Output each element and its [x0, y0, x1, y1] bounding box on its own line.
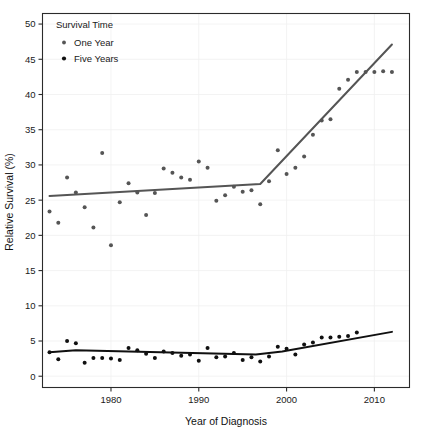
x-tick-label: 1980 — [100, 394, 121, 405]
data-point-one-year — [65, 176, 69, 180]
chart-figure: 05101520253035404550 1980199020002010 Ye… — [0, 0, 421, 432]
x-tick-label: 1990 — [188, 394, 209, 405]
data-point-one-year — [390, 70, 394, 74]
data-point-five-years — [109, 357, 113, 361]
data-point-five-years — [232, 351, 236, 355]
data-point-one-year — [337, 87, 341, 91]
data-point-one-year — [162, 166, 166, 170]
data-point-five-years — [241, 358, 245, 362]
data-point-one-year — [381, 69, 385, 73]
data-point-one-year — [109, 243, 113, 247]
data-point-one-year — [355, 70, 359, 74]
legend: Survival Time One Year Five Years — [56, 19, 119, 64]
data-point-five-years — [162, 350, 166, 354]
relative-survival-scatter-chart: 05101520253035404550 1980199020002010 Ye… — [0, 0, 421, 432]
data-point-five-years — [285, 347, 289, 351]
data-point-one-year — [302, 154, 306, 158]
data-point-five-years — [355, 331, 359, 335]
x-tick-label: 2010 — [364, 394, 385, 405]
data-point-one-year — [74, 190, 78, 194]
y-tick-label: 5 — [30, 335, 35, 346]
data-point-five-years — [249, 355, 253, 359]
data-point-five-years — [144, 352, 148, 356]
y-tick-label: 30 — [25, 159, 36, 170]
y-tick-label: 45 — [25, 54, 36, 65]
data-point-five-years — [293, 352, 297, 356]
y-tick-label: 35 — [25, 124, 36, 135]
data-point-five-years — [197, 359, 201, 363]
data-point-five-years — [276, 345, 280, 349]
data-point-one-year — [249, 188, 253, 192]
data-point-five-years — [127, 346, 131, 350]
legend-marker-one-year — [62, 41, 66, 45]
data-point-five-years — [100, 356, 104, 360]
data-point-one-year — [197, 159, 201, 163]
data-point-five-years — [135, 348, 139, 352]
y-tick-label: 0 — [30, 371, 35, 382]
data-point-five-years — [267, 355, 271, 359]
data-point-one-year — [372, 70, 376, 74]
data-point-five-years — [56, 357, 60, 361]
data-point-one-year — [127, 181, 131, 185]
y-tick-label: 15 — [25, 265, 36, 276]
data-point-one-year — [179, 176, 183, 180]
data-point-one-year — [118, 200, 122, 204]
data-point-five-years — [179, 354, 183, 358]
data-point-five-years — [258, 359, 262, 363]
data-point-one-year — [258, 202, 262, 206]
data-point-one-year — [135, 190, 139, 194]
data-point-one-year — [328, 117, 332, 121]
y-tick-label: 25 — [25, 195, 36, 206]
legend-label-one-year: One Year — [74, 37, 114, 48]
data-point-one-year — [188, 178, 192, 182]
data-point-one-year — [170, 171, 174, 175]
data-point-one-year — [48, 209, 52, 213]
x-tick-label: 2000 — [276, 394, 297, 405]
y-tick-label: 40 — [25, 89, 36, 100]
data-point-one-year — [144, 213, 148, 217]
y-axis-label: Relative Survival (%) — [3, 153, 15, 250]
data-point-five-years — [153, 356, 157, 360]
legend-title: Survival Time — [56, 19, 113, 30]
data-point-five-years — [83, 361, 87, 365]
chart-background — [0, 0, 421, 432]
data-point-five-years — [206, 346, 210, 350]
y-tick-label: 50 — [25, 18, 36, 29]
data-point-five-years — [337, 335, 341, 339]
data-point-five-years — [223, 355, 227, 359]
data-point-one-year — [267, 179, 271, 183]
data-point-five-years — [188, 352, 192, 356]
data-point-one-year — [293, 166, 297, 170]
data-point-five-years — [320, 335, 324, 339]
data-point-one-year — [311, 133, 315, 137]
data-point-one-year — [241, 190, 245, 194]
y-tick-label: 10 — [25, 300, 36, 311]
data-point-one-year — [83, 205, 87, 209]
data-point-one-year — [91, 226, 95, 230]
data-point-five-years — [48, 350, 52, 354]
data-point-one-year — [56, 221, 60, 225]
data-point-one-year — [206, 166, 210, 170]
data-point-five-years — [214, 355, 218, 359]
y-tick-label: 20 — [25, 230, 36, 241]
data-point-one-year — [100, 151, 104, 155]
data-point-one-year — [223, 193, 227, 197]
data-point-five-years — [170, 351, 174, 355]
x-axis-label: Year of Diagnosis — [185, 415, 267, 427]
data-point-five-years — [328, 335, 332, 339]
data-point-five-years — [302, 343, 306, 347]
data-point-five-years — [65, 339, 69, 343]
data-point-one-year — [276, 148, 280, 152]
data-point-five-years — [346, 334, 350, 338]
data-point-one-year — [285, 172, 289, 176]
data-point-five-years — [91, 356, 95, 360]
data-point-one-year — [346, 78, 350, 82]
data-point-five-years — [311, 340, 315, 344]
data-point-five-years — [74, 341, 78, 345]
data-point-one-year — [153, 191, 157, 195]
data-point-one-year — [232, 185, 236, 189]
data-point-five-years — [118, 358, 122, 362]
legend-marker-five-years — [62, 56, 66, 60]
data-point-one-year — [214, 199, 218, 203]
data-point-one-year — [364, 70, 368, 74]
